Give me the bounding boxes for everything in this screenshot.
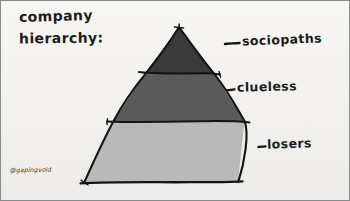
page-title-line2: hierarchy: xyxy=(19,31,104,46)
divider-right-tick xyxy=(219,71,221,77)
pyramid-base-line xyxy=(81,181,243,183)
pyramid-tier-clueless xyxy=(114,73,245,122)
tier-label-sociopaths: sociopaths xyxy=(242,32,322,48)
losers-dash-icon xyxy=(259,146,266,147)
tier-label-clueless: clueless xyxy=(237,80,297,94)
pyramid-tier-sociopaths xyxy=(145,28,214,74)
sociopaths-dash-icon xyxy=(225,43,240,44)
cartoon-canvas: company hierarchy: sociopaths clueless l… xyxy=(0,0,350,201)
divider-left-tick xyxy=(107,119,108,125)
clueless-dash-icon xyxy=(227,89,235,90)
pyramid-divider-clueless-losers xyxy=(107,121,250,122)
artist-signature: @gapingvoid xyxy=(10,167,52,174)
tier-label-losers: losers xyxy=(267,137,312,151)
page-title-line1: company xyxy=(19,8,93,24)
